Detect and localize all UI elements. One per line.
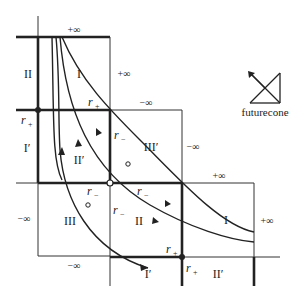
r-plus-label: r +: [88, 95, 100, 111]
region-label: III′: [144, 140, 159, 154]
svg-text:r: r: [186, 261, 191, 275]
infinity-label: +∞: [261, 215, 274, 226]
region-label: II′: [74, 153, 85, 167]
region-label: II: [135, 214, 143, 228]
svg-text:r: r: [87, 184, 92, 198]
marker-point: [126, 162, 130, 166]
svg-text:r: r: [114, 128, 119, 142]
infinity-label: +∞: [118, 68, 131, 79]
infinity-label: −∞: [140, 97, 153, 108]
region-label: III: [64, 214, 76, 228]
worldline-1: [60, 150, 148, 268]
region-label: I: [77, 67, 81, 81]
region-label: II: [24, 67, 32, 81]
infinity-label: +∞: [213, 170, 226, 181]
svg-text:−: −: [144, 191, 149, 200]
marker-point: [86, 203, 90, 207]
infinity-label: −∞: [68, 260, 81, 271]
infinity-label: −∞: [187, 141, 200, 152]
svg-text:r: r: [113, 203, 118, 217]
r-minus-label: r −: [113, 203, 125, 219]
infinity-label: +∞: [68, 24, 81, 35]
svg-text:r: r: [21, 113, 26, 127]
r-minus-label: r −: [87, 184, 99, 200]
region-label: I: [224, 213, 228, 227]
r-minus-label: r −: [114, 128, 126, 144]
svg-text:r: r: [137, 184, 142, 198]
futurecone-icon: [248, 71, 280, 103]
region-label: II′: [213, 267, 224, 281]
r-plus-label: r +: [186, 261, 198, 277]
r-plus-label: r +: [166, 242, 178, 258]
svg-text:+: +: [28, 120, 33, 129]
worldline-1: [56, 37, 60, 150]
svg-text:−: −: [94, 191, 99, 200]
r-minus-label: r −: [137, 184, 149, 200]
svg-text:+: +: [173, 249, 178, 258]
r-plus-point: [35, 107, 41, 113]
arrowhead-icon: [58, 147, 65, 155]
svg-text:−: −: [120, 210, 125, 219]
region-label: I′: [24, 141, 31, 155]
r-plus-label: r +: [21, 113, 33, 129]
arrowhead-icon: [96, 128, 102, 136]
svg-text:+: +: [95, 102, 100, 111]
region-label: I′: [145, 267, 152, 281]
arrowhead-icon: [165, 200, 171, 207]
worldline-5: [62, 37, 254, 232]
arrowhead-icon: [152, 217, 159, 224]
futurecone-label: futurecone: [241, 106, 288, 118]
r-minus-point: [107, 180, 113, 186]
infinity-label: −∞: [18, 213, 31, 224]
svg-text:r: r: [88, 95, 93, 109]
arrowhead-icon: [75, 139, 82, 147]
svg-text:r: r: [166, 242, 171, 256]
svg-text:+: +: [193, 268, 198, 277]
penrose-diagram: II I I′ II′ III′ III II I I′ II′ +∞ +∞ −…: [0, 0, 304, 294]
r-plus-point: [179, 254, 185, 260]
svg-text:−: −: [121, 135, 126, 144]
